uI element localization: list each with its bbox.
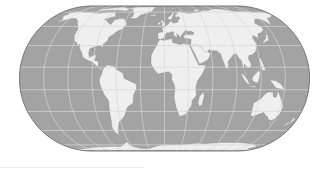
world-map — [0, 0, 327, 169]
footer-divider — [0, 167, 145, 168]
world-map-canvas[interactable] — [0, 0, 327, 169]
